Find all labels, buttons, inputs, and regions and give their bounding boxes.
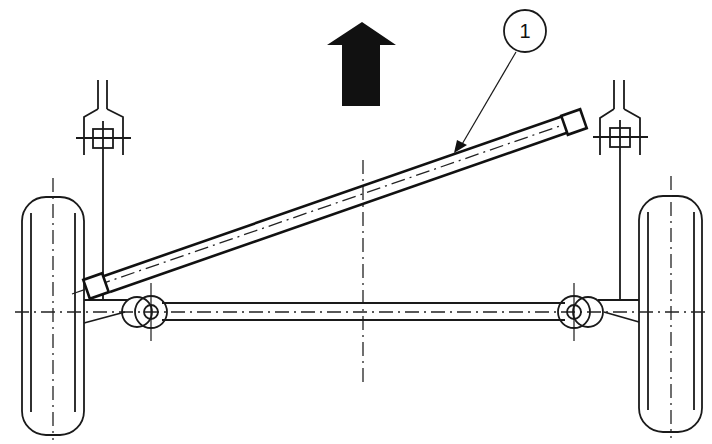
callout-1-label: 1 bbox=[519, 20, 530, 42]
left-wheel bbox=[22, 178, 84, 440]
right-wheel bbox=[639, 176, 702, 438]
axle-diagram: 1 bbox=[0, 0, 712, 444]
direction-arrow-icon bbox=[327, 22, 396, 106]
diagonal-rod bbox=[72, 109, 587, 298]
callout-1: 1 bbox=[454, 10, 546, 153]
